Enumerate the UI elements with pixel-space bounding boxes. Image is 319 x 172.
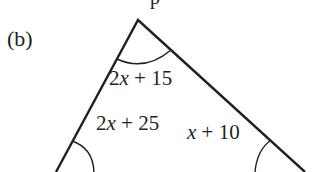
top-angle-label: 2x + 15 [109,66,172,91]
bottom-right-angle-arc [255,140,271,172]
top-angle-arc [117,50,171,64]
bottom-right-angle-label: x + 10 [187,120,240,145]
triangle-sides [56,20,305,172]
bottom-left-angle-arc [72,141,94,172]
bottom-left-angle-label: 2x + 25 [96,111,159,136]
